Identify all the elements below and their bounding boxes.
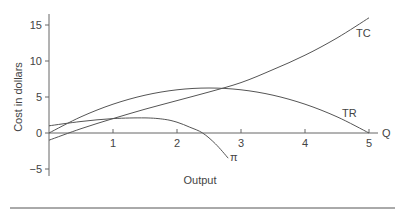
y-tick-label: 15 xyxy=(30,19,42,31)
x-tick-label: 3 xyxy=(238,137,244,149)
x-tick-label: 4 xyxy=(302,137,308,149)
x-tick-label: 2 xyxy=(174,137,180,149)
y-axis-title: Cost in dollars xyxy=(12,62,24,132)
curve-tr xyxy=(49,88,369,133)
curves xyxy=(49,18,369,158)
curve-tc xyxy=(49,18,369,140)
y-axis: 151050−5 xyxy=(29,14,49,176)
chart: 151050−5 12345 Cost in dollars Output Q … xyxy=(0,0,404,216)
tc-label: TC xyxy=(356,27,371,39)
x-axis: 12345 xyxy=(49,129,378,149)
x-axis-title: Output xyxy=(183,174,216,186)
x-tick-label: 1 xyxy=(110,137,116,149)
y-tick-label: 0 xyxy=(36,127,42,139)
curve-profit xyxy=(49,118,228,158)
y-tick-label: 10 xyxy=(30,55,42,67)
x-tick-label: 5 xyxy=(366,137,372,149)
q-axis-label: Q xyxy=(382,127,391,139)
y-tick-label: 5 xyxy=(36,91,42,103)
tr-label: TR xyxy=(342,107,357,119)
pi-label: π xyxy=(230,151,238,163)
y-tick-label: −5 xyxy=(29,163,42,175)
